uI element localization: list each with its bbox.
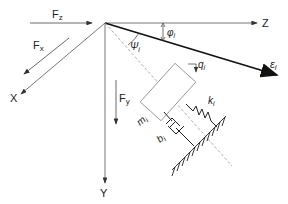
damper — [164, 112, 194, 146]
spring — [186, 104, 217, 127]
x-axis-label: X — [10, 92, 18, 104]
q-label: qi — [198, 59, 206, 71]
y-axis-label: Y — [100, 187, 108, 199]
epsilon-label: εi — [270, 58, 277, 72]
fx-label: Fx — [33, 39, 44, 53]
q-arrow — [188, 64, 196, 72]
ground — [172, 116, 226, 176]
mass-label: mi — [134, 112, 150, 128]
phi-label: φi — [167, 27, 176, 39]
psi-label: Ψi — [130, 41, 140, 53]
fz-label: Fz — [52, 8, 63, 22]
damper-label: bi — [154, 131, 168, 145]
z-axis-label: Z — [262, 17, 269, 29]
fx-arrow — [24, 38, 69, 74]
mass-spring-damper-diagram: Fz Fx Fy Z X Y εi φi Ψi mi qi ki bi — [0, 0, 288, 204]
fy-label: Fy — [119, 92, 130, 106]
x-axis — [21, 23, 105, 94]
spring-label: ki — [208, 95, 215, 107]
